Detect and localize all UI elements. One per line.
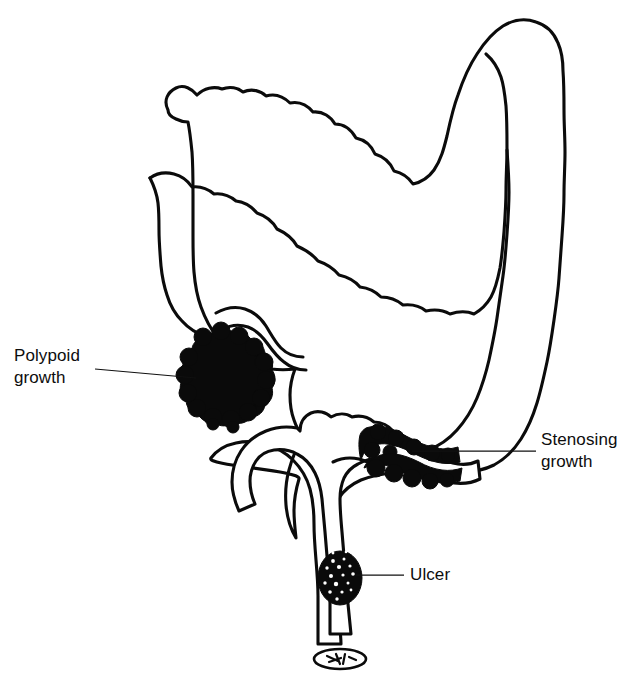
- label-polypoid-growth-line2: growth: [14, 368, 66, 387]
- label-ulcer-line1: Ulcer: [410, 565, 450, 584]
- label-stenosing-growth: Stenosing growth: [541, 430, 618, 471]
- anal-canal-group: [314, 649, 366, 669]
- label-stenosing-growth-line2: growth: [541, 452, 593, 471]
- label-polypoid-growth-line1: Polypoid: [14, 346, 80, 365]
- label-polypoid-growth: Polypoid growth: [14, 346, 80, 387]
- label-ulcer: Ulcer: [410, 565, 450, 584]
- ulcer-mass: [318, 551, 362, 605]
- label-stenosing-growth-line1: Stenosing: [541, 430, 618, 449]
- colon-pathology-diagram: Large bowel (colon) diagram showing site…: [0, 0, 629, 673]
